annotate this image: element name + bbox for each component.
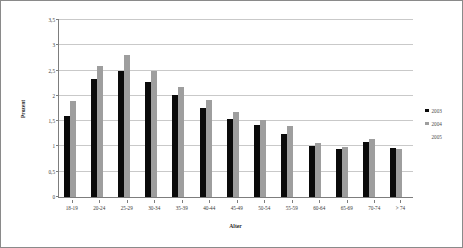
x-tick-mark (292, 200, 293, 203)
x-tick-label: 35-39 (176, 205, 188, 211)
x-tick-mark (182, 200, 183, 203)
bar-2004-30-34 (151, 71, 157, 197)
bar-2004-20-24 (97, 66, 103, 197)
x-tick: 45-49 (231, 200, 243, 216)
legend-swatch-2005 (425, 135, 429, 139)
bar-groups (59, 20, 413, 197)
bar-group (227, 20, 245, 197)
x-tick: 20-24 (93, 200, 105, 216)
legend-item-2003[interactable]: 2003 (425, 104, 461, 117)
y-axis-title: Prozent (20, 100, 26, 118)
bar-2004-35-39 (178, 87, 184, 197)
x-tick: 70-74 (368, 200, 380, 216)
bar-group (145, 20, 163, 197)
bar-2004-50-54 (260, 120, 266, 197)
y-tick-label: 2 (52, 93, 55, 99)
bar-2004--74 (396, 149, 402, 197)
bar-2004-70-74 (369, 139, 375, 197)
chart-legend: 200320042005 (425, 104, 461, 143)
bar-group (254, 20, 272, 197)
bar-group (64, 20, 82, 197)
x-tick-label: 50-54 (258, 205, 270, 211)
legend-item-2005[interactable]: 2005 (425, 130, 461, 143)
x-tick-mark (209, 200, 210, 203)
y-tick-label: 2,5 (49, 68, 55, 74)
x-tick: 65-69 (341, 200, 353, 216)
bar-group (390, 20, 408, 197)
x-tick-label: 60-64 (313, 205, 325, 211)
x-tick-label: 20-24 (93, 205, 105, 211)
y-tick-label: 0 (52, 194, 55, 200)
x-tick-label: 70-74 (368, 205, 380, 211)
x-tick-mark (154, 200, 155, 203)
x-tick-label: 18-19 (66, 205, 78, 211)
bar-group (172, 20, 190, 197)
bar-2004-60-64 (315, 143, 321, 197)
x-tick: 50-54 (258, 200, 270, 216)
x-tick-label: 30-34 (148, 205, 160, 211)
bar-group (336, 20, 354, 197)
x-tick: 55-59 (286, 200, 298, 216)
legend-label: 2005 (432, 134, 442, 140)
x-tick-label: 40-44 (203, 205, 215, 211)
bar-group (281, 20, 299, 197)
y-tick-label: 3 (52, 42, 55, 48)
chart-figure: Prozent 00,511,522,533,5 18-1920-2425-29… (0, 0, 463, 248)
x-tick-mark (99, 200, 100, 203)
x-tick-mark (400, 200, 401, 203)
x-tick: 40-44 (203, 200, 215, 216)
x-tick-mark (72, 200, 73, 203)
bar-group (363, 20, 381, 197)
y-tick-label: 3,5 (49, 17, 55, 23)
x-tick-mark (127, 200, 128, 203)
x-tick-mark (237, 200, 238, 203)
x-tick: 60-64 (313, 200, 325, 216)
x-tick-mark (264, 200, 265, 203)
x-tick-label: 55-59 (286, 205, 298, 211)
bar-group (118, 20, 136, 197)
legend-swatch-2004 (425, 122, 429, 126)
legend-item-2004[interactable]: 2004 (425, 117, 461, 130)
bar-2004-18-19 (70, 101, 76, 197)
x-tick-mark (347, 200, 348, 203)
x-tick: 35-39 (176, 200, 188, 216)
x-tick: 30-34 (148, 200, 160, 216)
y-tick-label: 0,5 (49, 169, 55, 175)
bar-group (91, 20, 109, 197)
legend-swatch-2003 (425, 109, 429, 113)
x-tick-label: 65-69 (341, 205, 353, 211)
y-tick-label: 1,5 (49, 118, 55, 124)
bar-2004-45-49 (233, 112, 239, 197)
bar-2004-40-44 (206, 100, 212, 197)
x-tick: 18-19 (66, 200, 78, 216)
x-tick-mark (374, 200, 375, 203)
x-tick-label: 25-29 (121, 205, 133, 211)
legend-label: 2003 (432, 108, 442, 114)
bar-2004-25-29 (124, 55, 130, 197)
x-tick: 25-29 (121, 200, 133, 216)
x-tick-label: > 74 (396, 205, 405, 211)
x-tick-mark (319, 200, 320, 203)
bar-group (309, 20, 327, 197)
x-axis-tick-labels: 18-1920-2425-2930-3435-3940-4445-4950-54… (58, 200, 413, 216)
legend-label: 2004 (432, 121, 442, 127)
bar-group (200, 20, 218, 197)
x-tick: > 74 (396, 200, 405, 216)
y-tick-label: 1 (52, 143, 55, 149)
bar-2004-55-59 (287, 126, 293, 197)
x-axis-title: Alter (58, 223, 413, 229)
x-tick-label: 45-49 (231, 205, 243, 211)
bar-2004-65-69 (342, 147, 348, 197)
plot-area: 00,511,522,533,5 (58, 20, 413, 198)
